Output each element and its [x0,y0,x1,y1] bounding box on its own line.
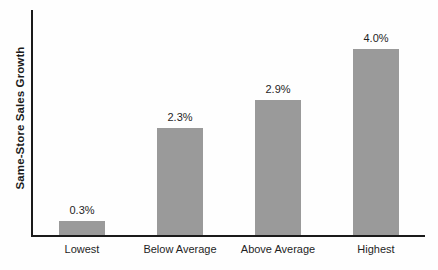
x-label-below-average: Below Average [143,243,216,255]
bar-highest [353,49,399,235]
bar-chart: Same-Store Sales Growth 0.3% 2.3% 2.9% 4… [0,0,438,270]
bar-value-below-average: 2.3% [167,111,192,123]
bar-lowest [59,221,105,235]
bar-value-above-average: 2.9% [265,83,290,95]
bar-value-highest: 4.0% [363,32,388,44]
bar-slot-highest: 4.0% [327,10,425,235]
x-label-lowest: Lowest [65,243,100,255]
bar-above-average [255,100,301,235]
x-label-highest: Highest [357,243,394,255]
bar-value-lowest: 0.3% [69,204,94,216]
x-axis-line [31,235,425,237]
bar-slot-lowest: 0.3% [33,10,131,235]
x-label-above-average: Above Average [241,243,315,255]
plot-area: 0.3% 2.3% 2.9% 4.0% [33,10,425,235]
bar-slot-above-average: 2.9% [229,10,327,235]
bar-below-average [157,128,203,235]
bar-slot-below-average: 2.3% [131,10,229,235]
x-axis-labels: Lowest Below Average Above Average Highe… [33,243,425,261]
y-axis-title: Same-Store Sales Growth [10,0,30,236]
